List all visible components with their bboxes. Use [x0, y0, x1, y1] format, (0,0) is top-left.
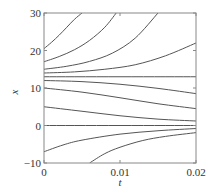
curve-7: [44, 107, 196, 121]
curve-2: [44, 13, 158, 69]
plot-frame: [44, 13, 196, 163]
y-tick-label: −10: [24, 157, 42, 169]
x-tick-label: 0.02: [186, 166, 205, 178]
y-tick-label: 10: [30, 82, 42, 94]
curve-5: [44, 81, 196, 94]
curve-9: [44, 129, 196, 152]
y-axis-ticks: −100102030: [24, 7, 196, 169]
y-tick-label: 30: [30, 7, 42, 19]
solution-curves: [44, 13, 196, 163]
y-tick-label: 20: [30, 45, 42, 57]
y-axis-label: x: [8, 89, 20, 95]
curve-1: [44, 13, 116, 62]
x-tick-label: 0: [41, 166, 47, 178]
curve-10: [90, 133, 196, 163]
x-axis-ticks: 00.010.02: [41, 13, 205, 178]
curve-0: [44, 13, 82, 49]
curve-3: [44, 43, 196, 73]
chart: −100102030 00.010.02 t x: [0, 0, 213, 193]
curve-6: [44, 88, 196, 109]
y-tick-label: 0: [36, 120, 42, 132]
